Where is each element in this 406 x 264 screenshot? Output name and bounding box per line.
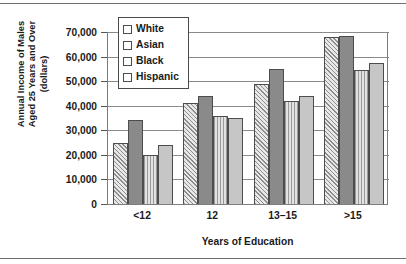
legend-item-black: Black (123, 53, 184, 69)
bar (354, 70, 369, 204)
bar (299, 96, 314, 204)
y-tick-label: 40,000 (37, 100, 97, 111)
legend-label: Asian (136, 40, 164, 50)
legend-swatch-icon (123, 57, 132, 66)
y-tick-label: 50,000 (37, 76, 97, 87)
bar (158, 145, 173, 204)
bar-group (319, 32, 389, 204)
y-tick-label: 60,000 (37, 51, 97, 62)
bar (269, 69, 284, 204)
legend-swatch-icon (123, 41, 132, 50)
bar (113, 143, 128, 204)
bar (369, 63, 384, 204)
y-tick-label: 0 (37, 199, 97, 210)
x-tick-label: 12 (177, 210, 247, 221)
legend-swatch-icon (123, 25, 132, 34)
y-tick-label: 70,000 (37, 27, 97, 38)
top-divider-rule (0, 3, 406, 4)
bar (339, 36, 354, 204)
bar-chart-figure: Annual Income of Males Aged 25 Years and… (0, 0, 406, 264)
bar (228, 118, 243, 204)
y-tick-label: 30,000 (37, 125, 97, 136)
legend-item-white: White (123, 21, 184, 37)
legend-item-hispanic: Hispanic (123, 69, 184, 85)
y-axis-ticks: 010,00020,00030,00040,00050,00060,00070,… (0, 32, 107, 205)
bar (198, 96, 213, 204)
legend-swatch-icon (123, 73, 132, 82)
bottom-divider-rule (0, 258, 406, 259)
y-tick-label: 20,000 (37, 149, 97, 160)
x-tick-label: 13–15 (248, 210, 318, 221)
bar (143, 155, 158, 204)
y-tick-label: 10,000 (37, 174, 97, 185)
bar (183, 103, 198, 204)
x-axis-title: Years of Education (107, 236, 388, 247)
legend-label: White (136, 24, 164, 34)
x-tick-label: >15 (318, 210, 388, 221)
x-axis-tick-labels: <121213–15>15 (107, 210, 388, 221)
legend: WhiteAsianBlackHispanic (118, 17, 189, 89)
legend-item-asian: Asian (123, 37, 184, 53)
bar (324, 37, 339, 204)
bar (213, 116, 228, 204)
bar-group (249, 32, 319, 204)
bar (254, 84, 269, 204)
bar (284, 101, 299, 204)
legend-label: Hispanic (136, 72, 179, 82)
x-tick-label: <12 (107, 210, 177, 221)
bar (128, 120, 143, 204)
legend-label: Black (136, 56, 163, 66)
